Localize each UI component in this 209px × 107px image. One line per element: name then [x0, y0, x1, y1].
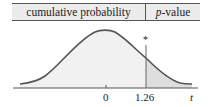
tick-label-critical: 1.26 [135, 91, 154, 103]
star-marker: * [143, 34, 148, 45]
tick-label-zero: 0 [103, 91, 109, 103]
axis-label-t: t [190, 91, 193, 103]
